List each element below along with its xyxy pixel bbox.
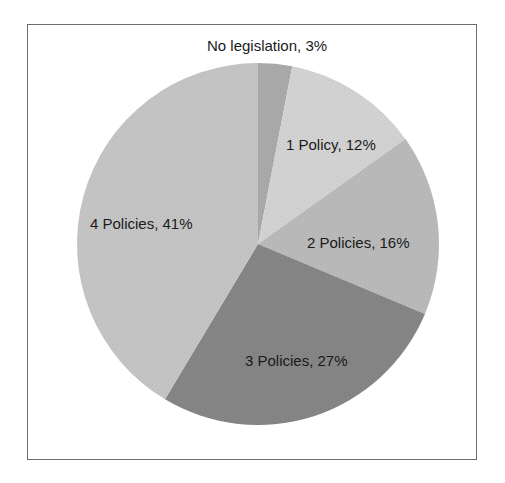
slice-label-no-legislation: No legislation, 3% [207, 38, 327, 53]
slice-label-3-policies: 3 Policies, 27% [245, 353, 348, 368]
slice-label-4-policies: 4 Policies, 41% [90, 216, 193, 231]
slice-label-2-policies: 2 Policies, 16% [307, 235, 410, 250]
slice-label-1-policy: 1 Policy, 12% [286, 137, 376, 152]
pie-chart [0, 0, 505, 483]
